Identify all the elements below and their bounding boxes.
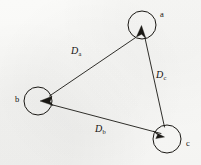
edge-label-Db-base: D (95, 123, 102, 134)
edge-Dc-line (145, 38, 165, 127)
triangle-graph-svg (0, 0, 201, 165)
edge-label-Da-base: D (71, 45, 78, 56)
edge-label-Dc: Dc (156, 70, 166, 80)
node-label-b: b (15, 95, 19, 104)
diagram-canvas: a b c Da Db Dc (0, 0, 201, 165)
edge-label-Db: Db (95, 124, 105, 134)
edge-Db-line (51, 105, 161, 134)
edge-Da-line (50, 38, 136, 97)
node-c-circle (153, 125, 181, 153)
node-label-c: c (186, 139, 190, 148)
edge-Db (51, 105, 165, 139)
edge-label-Db-sub: b (103, 128, 106, 135)
edge-Dc-arrowhead (136, 26, 146, 39)
edge-Da (40, 38, 136, 106)
edge-label-Da: Da (71, 46, 81, 56)
edge-label-Da-sub: a (79, 50, 82, 57)
edge-label-Dc-sub: c (164, 74, 167, 81)
node-label-a: a (160, 10, 164, 19)
edge-label-Dc-base: D (156, 69, 163, 80)
